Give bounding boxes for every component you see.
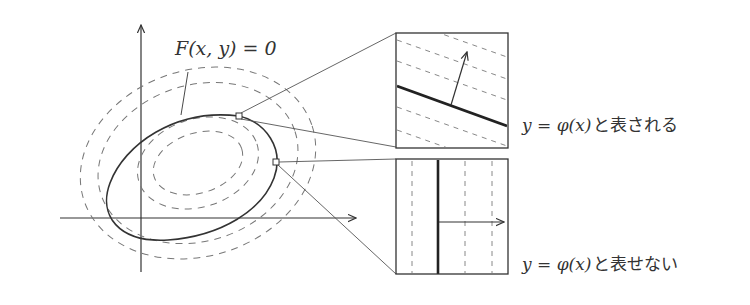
regular-point-marker <box>236 113 242 119</box>
curve-label-leader <box>181 72 188 115</box>
gradient-arrow <box>451 52 467 105</box>
upper-inset <box>396 18 508 169</box>
tangent-line-segment <box>397 86 507 126</box>
curve-label: F(x, y) = 0 <box>174 37 277 59</box>
zoom-connectors <box>241 33 396 274</box>
implicit-function-diagram: F(x, y) = 0 y = φ(x)と表される <box>0 0 750 305</box>
vertical-tangent-point-marker <box>273 159 279 165</box>
lower-inset <box>396 159 508 274</box>
level-curves <box>55 37 341 288</box>
lower-inset-caption: y = φ(x)と表せない <box>521 254 678 274</box>
coordinate-axes <box>60 25 356 272</box>
lower-inset-frame <box>396 159 508 274</box>
upper-inset-caption: y = φ(x)と表される <box>521 115 678 135</box>
